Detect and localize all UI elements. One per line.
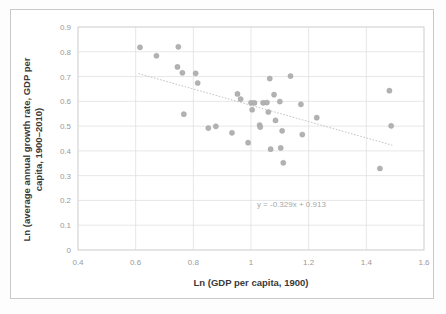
scatter-point [252,100,257,105]
scatter-point [298,102,303,107]
x-axis-title: Ln (GDP per capita, 1900) [194,277,309,288]
scatter-point [238,97,243,102]
y-tick-label: 0.1 [60,221,72,230]
y-tick-label: 0 [67,246,72,255]
scatter-point [271,92,276,97]
data-points [137,44,393,171]
y-tick-label: 0.9 [60,23,72,32]
scatter-point [264,100,269,105]
scatter-point [300,132,305,137]
scatter-point [389,123,394,128]
trendline [139,74,393,146]
scatter-point [387,88,392,93]
scatter-point [267,76,272,81]
scatter-point [258,125,263,130]
x-tick-label: 1.2 [303,258,315,267]
scatter-point [175,64,180,69]
x-tick-label: 1 [249,258,254,267]
scatter-point [181,112,186,117]
scatter-point [235,91,240,96]
y-tick-label: 0.2 [60,196,72,205]
scatter-point [280,128,285,133]
scatter-point [314,115,319,120]
scatter-point [193,71,198,76]
y-axis-tick-labels: 00.10.20.30.40.50.60.70.80.9 [60,23,72,255]
scatter-point [154,53,159,58]
scatter-chart: 0.40.60.811.21.41.6 00.10.20.30.40.50.60… [0,0,446,314]
y-tick-label: 0.5 [60,122,72,131]
scatter-point [229,130,234,135]
figure-container: 0.40.60.811.21.41.6 00.10.20.30.40.50.60… [0,0,446,314]
scatter-point [176,44,181,49]
scatter-point [213,124,218,129]
x-tick-label: 0.4 [72,258,84,267]
scatter-point [288,73,293,78]
scatter-point [195,80,200,85]
scatter-point [277,99,282,104]
scatter-point [206,125,211,130]
scatter-point [281,160,286,165]
y-tick-label: 0.6 [60,97,72,106]
scatter-point [278,145,283,150]
y-tick-label: 0.8 [60,48,72,57]
scatter-point [273,118,278,123]
scatter-point [266,109,271,114]
y-tick-label: 0.7 [60,73,72,82]
x-axis-tick-labels: 0.40.60.811.21.41.6 [72,258,430,267]
x-tick-label: 1.6 [418,258,430,267]
x-tick-label: 0.6 [130,258,142,267]
scatter-point [250,107,255,112]
scatter-point [268,147,273,152]
x-tick-label: 1.4 [361,258,373,267]
x-tick-label: 0.8 [188,258,200,267]
scatter-point [137,45,142,50]
gridlines [78,27,424,250]
scatter-point [246,140,251,145]
scatter-point [180,70,185,75]
trendline-equation-label: y = -0.329x + 0.913 [257,200,326,209]
y-tick-label: 0.4 [60,147,72,156]
y-tick-label: 0.3 [60,172,72,181]
scatter-point [377,166,382,171]
